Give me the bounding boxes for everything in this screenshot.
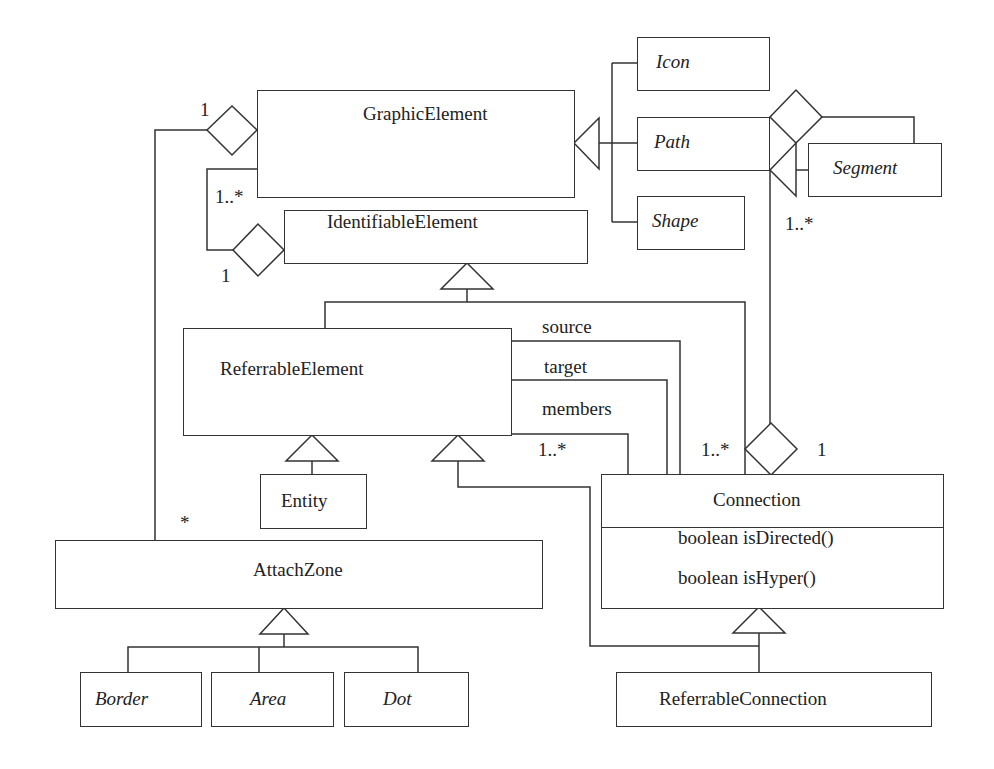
class-referrable-connection: ReferrableConnection: [616, 672, 932, 727]
class-graphic-element: GraphicElement: [257, 90, 575, 198]
aggregation-diamond-connection: [745, 423, 797, 475]
method-is-hyper: boolean isHyper(): [678, 567, 816, 589]
mult-attachzone-many: *: [180, 512, 190, 534]
role-target: target: [544, 356, 587, 378]
class-referrable-element: ReferrableElement: [183, 328, 512, 436]
generalization-triangle-referrable-entity: [286, 435, 338, 461]
class-name: ReferrableElement: [220, 358, 363, 380]
generalization-triangle-attachzone: [260, 608, 308, 634]
class-border: Border: [80, 672, 202, 727]
class-name: ReferrableConnection: [659, 688, 827, 710]
generalization-triangle-connection: [733, 607, 785, 633]
class-name: AttachZone: [253, 559, 343, 581]
aggregation-diamond-path-segment: [770, 90, 822, 143]
generalization-triangle-referrable-conn: [432, 435, 484, 461]
mult-identifiable-one: 1: [221, 265, 231, 287]
aggregation-diamond-graphic-attach: [207, 106, 257, 155]
class-name: Area: [250, 688, 286, 710]
class-icon: Icon: [637, 37, 770, 91]
class-name: Dot: [383, 688, 412, 710]
mult-segment-many: 1..*: [785, 213, 814, 235]
class-name: Segment: [833, 157, 897, 179]
class-name: Shape: [652, 210, 698, 232]
class-dot: Dot: [344, 672, 469, 727]
method-is-directed: boolean isDirected(): [678, 527, 834, 549]
class-name: Entity: [281, 490, 327, 512]
class-name: Path: [654, 131, 690, 153]
generalization-triangle-graphic: [574, 118, 599, 169]
class-name: Icon: [656, 51, 690, 73]
class-connection: Connection boolean isDirected() boolean …: [601, 474, 944, 609]
role-source: source: [542, 316, 592, 338]
mult-graphic-attach-one: 1: [200, 99, 210, 121]
class-area: Area: [211, 672, 334, 727]
aggregation-diamond-identifiable: [233, 224, 284, 276]
class-path: Path: [637, 117, 770, 171]
generalization-triangle-identifiable: [441, 263, 493, 289]
generalization-triangle-segment: [770, 143, 796, 196]
class-entity: Entity: [260, 474, 367, 529]
class-name: GraphicElement: [363, 103, 488, 125]
class-identifiable-element: IdentifiableElement: [284, 210, 588, 264]
mult-connection-path-one: 1: [817, 439, 827, 461]
role-members: members: [542, 398, 612, 420]
class-name: IdentifiableElement: [327, 211, 478, 233]
class-shape: Shape: [637, 196, 745, 250]
class-name: Border: [95, 688, 148, 710]
class-attach-zone: AttachZone: [55, 540, 543, 609]
class-name: Connection: [713, 489, 801, 511]
mult-graphic-self-many: 1..*: [215, 186, 244, 208]
class-segment: Segment: [808, 143, 942, 197]
mult-members-many: 1..*: [538, 439, 567, 461]
mult-connection-path-many: 1..*: [701, 439, 730, 461]
